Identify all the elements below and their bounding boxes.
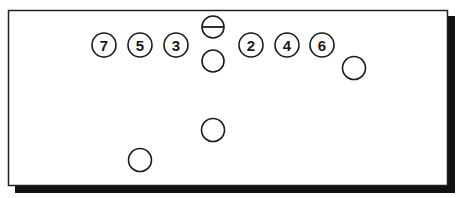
center-player [202,16,224,38]
player-6: 6 [310,33,334,57]
player-number: 2 [247,37,255,54]
player-7: 7 [92,33,116,57]
player-2: 2 [239,33,263,57]
player-number: 6 [318,37,326,54]
player-number: 7 [100,37,108,54]
player-number: 5 [136,37,144,54]
wide-right-circle-icon [343,57,366,80]
player-4: 4 [275,33,299,57]
player-3: 3 [164,33,188,57]
field-frame [9,11,448,186]
player-5: 5 [128,33,152,57]
formation-diagram: 7 5 3 2 4 6 [0,0,461,198]
quarterback-circle-icon [202,50,224,72]
back-left-circle-icon [129,149,152,172]
player-number: 4 [283,37,292,54]
back-center-circle-icon [202,119,225,142]
player-number: 3 [172,37,180,54]
